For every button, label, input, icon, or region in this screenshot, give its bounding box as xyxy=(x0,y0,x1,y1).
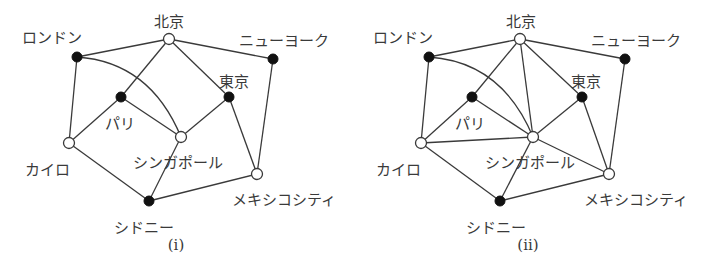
edge-cairo-sydney xyxy=(69,143,149,201)
graph-panel-i: 北京ロンドンニューヨークパリ東京シンガポールカイロメキシコシティシドニー (i) xyxy=(22,13,336,255)
edge-layer xyxy=(421,39,625,201)
panel-caption-i: (i) xyxy=(168,236,185,254)
node-label-mexico: メキシコシティ xyxy=(584,191,688,209)
node-label-tokyo: 東京 xyxy=(571,73,601,91)
node-label-singapore: シンガポール xyxy=(133,154,223,172)
edge-cairo-sydney xyxy=(421,143,500,201)
node-label-sydney: シドニー xyxy=(466,219,526,237)
node-paris-filled-circle-icon xyxy=(116,92,126,102)
node-label-newyork: ニューヨーク xyxy=(591,32,681,50)
node-label-beijing: 北京 xyxy=(154,13,184,31)
node-label-london: ロンドン xyxy=(22,29,82,47)
edge-newyork-mexico xyxy=(257,59,273,174)
node-beijing-open-circle-icon xyxy=(164,34,175,45)
node-sydney-filled-circle-icon xyxy=(144,196,154,206)
node-cairo-open-circle-icon xyxy=(416,138,427,149)
node-label-paris: パリ xyxy=(455,115,485,133)
node-label-cairo: カイロ xyxy=(376,161,421,179)
label-layer: 北京ロンドンニューヨークパリ東京シンガポールカイロメキシコシティシドニー xyxy=(22,13,336,237)
node-label-tokyo: 東京 xyxy=(219,73,249,91)
edge-london-cairo xyxy=(69,57,77,143)
node-tokyo-filled-circle-icon xyxy=(577,92,587,102)
node-newyork-filled-circle-icon xyxy=(620,54,630,64)
node-london-filled-circle-icon xyxy=(424,52,434,62)
node-london-filled-circle-icon xyxy=(72,52,82,62)
node-label-newyork: ニューヨーク xyxy=(239,32,329,50)
graph-panel-ii: 北京ロンドンニューヨークパリ東京シンガポールカイロメキシコシティシドニー (ii… xyxy=(373,13,688,255)
node-label-singapore: シンガポール xyxy=(485,154,575,172)
node-label-cairo: カイロ xyxy=(25,161,70,179)
node-mexico-open-circle-icon xyxy=(252,169,263,180)
edge-tokyo-singapore xyxy=(181,97,229,137)
node-newyork-filled-circle-icon xyxy=(268,54,278,64)
edge-beijing-paris xyxy=(121,39,169,97)
node-label-beijing: 北京 xyxy=(506,13,536,31)
edge-london-cairo xyxy=(421,57,429,143)
node-singapore-open-circle-icon xyxy=(176,132,187,143)
edge-tokyo-singapore xyxy=(533,97,582,137)
node-label-sydney: シドニー xyxy=(114,219,174,237)
node-paris-filled-circle-icon xyxy=(467,92,477,102)
node-label-mexico: メキシコシティ xyxy=(232,191,336,209)
node-label-london: ロンドン xyxy=(373,29,433,47)
node-sydney-filled-circle-icon xyxy=(495,196,505,206)
edge-cairo-singapore xyxy=(421,137,533,143)
edge-tokyo-mexico xyxy=(229,97,257,174)
node-beijing-open-circle-icon xyxy=(515,34,526,45)
panel-caption-ii: (ii) xyxy=(517,236,538,254)
node-mexico-open-circle-icon xyxy=(604,169,615,180)
edge-beijing-london xyxy=(77,39,169,57)
edge-beijing-london xyxy=(429,39,520,57)
node-cairo-open-circle-icon xyxy=(64,138,75,149)
edge-layer xyxy=(69,39,273,201)
city-graph-figure: 北京ロンドンニューヨークパリ東京シンガポールカイロメキシコシティシドニー (i)… xyxy=(0,0,705,274)
label-layer: 北京ロンドンニューヨークパリ東京シンガポールカイロメキシコシティシドニー xyxy=(373,13,688,237)
node-singapore-open-circle-icon xyxy=(528,132,539,143)
node-label-paris: パリ xyxy=(105,115,135,133)
edge-newyork-mexico xyxy=(609,59,625,174)
node-tokyo-filled-circle-icon xyxy=(224,92,234,102)
